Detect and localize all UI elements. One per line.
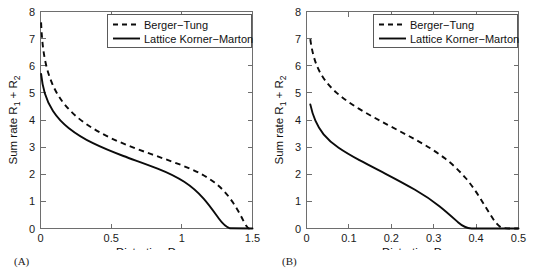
curve-lattice-korner-marton xyxy=(41,74,252,229)
x-tick-label: 0 xyxy=(303,232,309,244)
y-axis-title-plus: + R xyxy=(7,80,19,101)
panel-b-legend: Berger−Tung Lattice Korner−Marton xyxy=(374,15,520,48)
y-tick-label: 7 xyxy=(295,33,301,45)
y-tick-label: 0 xyxy=(29,223,35,235)
x-tick-label: 0.4 xyxy=(468,232,483,244)
y-tick-label: 3 xyxy=(29,141,35,153)
y-axis-title-plus: + R xyxy=(273,80,285,101)
y-tick-label: 2 xyxy=(295,168,301,180)
y-tick-label: 1 xyxy=(295,195,301,207)
y-axis-title-sub2: 2 xyxy=(278,75,288,80)
y-tick-label: 4 xyxy=(295,114,301,126)
y-tick-label: 8 xyxy=(29,6,35,18)
legend-label-berger-tung: Berger−Tung xyxy=(144,19,208,31)
x-tick-label: 0.5 xyxy=(104,232,119,244)
y-tick-label: 5 xyxy=(29,87,35,99)
y-tick-label: 3 xyxy=(295,141,301,153)
panel-a-curves xyxy=(41,22,252,228)
y-tick-label: 6 xyxy=(29,60,35,72)
y-tick-label: 6 xyxy=(295,60,301,72)
legend-label-berger-tung: Berger−Tung xyxy=(410,19,474,31)
panel-a-legend: Berger−Tung Lattice Korner−Marton xyxy=(108,15,254,48)
x-tick-label: 1.5 xyxy=(245,232,260,244)
y-tick-label: 0 xyxy=(295,223,301,235)
panel-a: 0 1 2 3 4 5 6 7 8 0 0.5 1 1.5 Distortion… xyxy=(0,0,266,275)
panel-a-plot: 0 1 2 3 4 5 6 7 8 0 0.5 1 1.5 Distortion… xyxy=(0,0,266,250)
curve-berger-tung xyxy=(41,22,252,228)
y-tick-label: 4 xyxy=(29,114,35,126)
svg-text:Sum rate R1 + R2: Sum rate R1 + R2 xyxy=(273,75,288,164)
y-tick-label: 1 xyxy=(29,195,35,207)
x-axis-title: Distortion D xyxy=(382,246,442,250)
panel-b-caption: (B) xyxy=(282,255,297,267)
panel-b-y-tick-labels: 0 1 2 3 4 5 6 7 8 xyxy=(295,6,301,235)
panel-b-x-tick-labels: 0 0.1 0.2 0.3 0.4 0.5 xyxy=(303,232,526,244)
y-tick-label: 5 xyxy=(295,87,301,99)
x-tick-label: 0 xyxy=(37,232,43,244)
panel-b-curves xyxy=(310,39,518,228)
y-axis-title-sub2: 2 xyxy=(12,75,22,80)
panel-b-plot: 0 1 2 3 4 5 6 7 8 0 0.1 0.2 0.3 0.4 0.5 … xyxy=(267,0,533,250)
x-tick-label: 0.3 xyxy=(426,232,441,244)
curve-berger-tung xyxy=(310,39,518,228)
panel-b: 0 1 2 3 4 5 6 7 8 0 0.1 0.2 0.3 0.4 0.5 … xyxy=(267,0,533,275)
y-tick-label: 2 xyxy=(29,168,35,180)
y-tick-label: 7 xyxy=(29,33,35,45)
panel-a-y-tick-labels: 0 1 2 3 4 5 6 7 8 xyxy=(29,6,35,235)
x-axis-title: Distortion D xyxy=(116,246,176,250)
y-axis-title-main: Sum rate R xyxy=(7,106,19,164)
x-tick-label: 0.1 xyxy=(341,232,356,244)
y-axis-title: Sum rate R1 + R2 xyxy=(7,75,22,164)
svg-text:Sum rate R1 + R2: Sum rate R1 + R2 xyxy=(7,75,22,164)
legend-label-lattice-korner-marton: Lattice Korner−Marton xyxy=(144,33,253,45)
x-tick-label: 1 xyxy=(179,232,185,244)
y-tick-label: 8 xyxy=(295,6,301,18)
figure-container: 0 1 2 3 4 5 6 7 8 0 0.5 1 1.5 Distortion… xyxy=(0,0,533,275)
legend-label-lattice-korner-marton: Lattice Korner−Marton xyxy=(410,33,519,45)
y-axis-title-main: Sum rate R xyxy=(273,106,285,164)
x-tick-label: 0.5 xyxy=(511,232,526,244)
panel-a-x-tick-labels: 0 0.5 1 1.5 xyxy=(37,232,260,244)
panel-a-caption: (A) xyxy=(14,255,29,267)
x-tick-label: 0.2 xyxy=(384,232,399,244)
y-axis-title: Sum rate R1 + R2 xyxy=(273,75,288,164)
